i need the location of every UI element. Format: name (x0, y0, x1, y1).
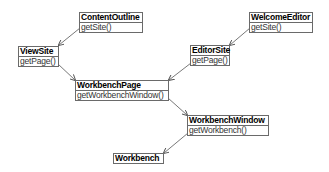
class-box-workbenchpage: WorkbenchPage getWorkbenchWindow() (75, 80, 169, 101)
edge-editorsite-workbenchpage (169, 63, 191, 80)
class-method: getWorkbench() (188, 125, 268, 135)
class-method: getSite() (80, 22, 142, 32)
class-title: WorkbenchPage (76, 81, 168, 90)
edge-welcomeeditor-editorsite (230, 28, 250, 45)
class-title: WorkbenchWindow (188, 116, 268, 125)
edge-workbenchwindow-workbench (164, 133, 188, 153)
class-method: getWorkbenchWindow() (76, 90, 168, 100)
class-title: WelcomeEditor (250, 13, 312, 22)
class-method: getPage() (191, 55, 229, 65)
class-title: Workbench (114, 154, 163, 163)
edge-contentoutline-viewsite (59, 28, 80, 45)
class-box-workbenchwindow: WorkbenchWindow getWorkbench() (187, 115, 269, 136)
class-box-welcomeeditor: WelcomeEditor getSite() (249, 12, 313, 33)
class-box-editorsite: EditorSite getPage() (190, 45, 230, 66)
class-box-workbench: Workbench (113, 153, 164, 164)
class-title: ContentOutline (80, 13, 142, 22)
class-title: EditorSite (191, 46, 229, 55)
edge-workbenchpage-workbenchwindow (168, 98, 187, 115)
edge-viewsite-workbenchpage (58, 64, 75, 80)
class-box-contentoutline: ContentOutline getSite() (79, 12, 143, 33)
class-method: getSite() (250, 22, 312, 32)
class-method: getPage() (19, 56, 58, 66)
class-title: ViewSite (19, 47, 58, 56)
class-box-viewsite: ViewSite getPage() (18, 46, 59, 67)
